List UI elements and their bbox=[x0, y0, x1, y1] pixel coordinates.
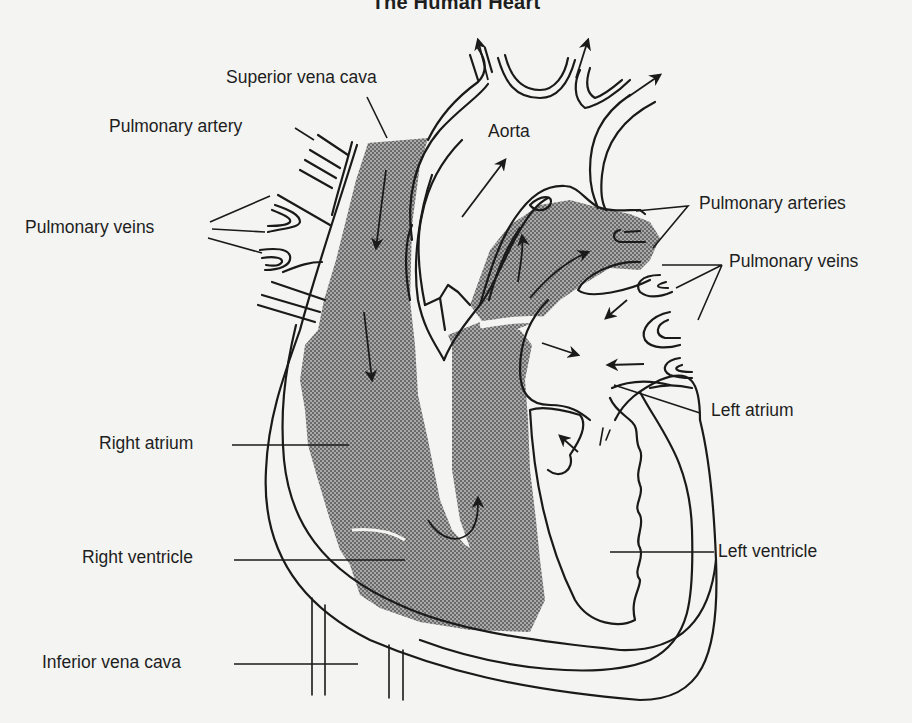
right-pulmonary-vein-loop-2 bbox=[644, 312, 680, 347]
pulmonary-vein-arrow-3 bbox=[542, 343, 578, 355]
label-pulmonary-veins-right: Pulmonary veins bbox=[729, 253, 858, 271]
heart-diagram: The Human Heart bbox=[0, 0, 912, 723]
pulmonary-vein-arrow-2 bbox=[608, 364, 644, 365]
aorta-outflow-arrow bbox=[462, 160, 505, 217]
label-right-ventricle: Right ventricle bbox=[82, 549, 193, 567]
inferior-vena-cava-wall bbox=[312, 598, 403, 700]
leader-pulmonary-veins-left bbox=[208, 196, 270, 253]
left-pulmonary-artery bbox=[310, 135, 348, 168]
label-pulmonary-artery: Pulmonary artery bbox=[109, 118, 242, 136]
left-pulmonary-vein-3 bbox=[258, 282, 325, 322]
label-superior-vena-cava: Superior vena cava bbox=[226, 69, 377, 87]
aorta-outer-left bbox=[428, 48, 485, 140]
label-aorta: Aorta bbox=[488, 123, 530, 141]
aortic-arch-top bbox=[498, 58, 575, 98]
leader-pulmonary-artery bbox=[295, 128, 314, 140]
left-ventricle-chamber bbox=[530, 398, 641, 624]
aortic-branch-arrow-2 bbox=[576, 40, 588, 78]
label-inferior-vena-cava: Inferior vena cava bbox=[42, 654, 181, 672]
label-left-ventricle: Left ventricle bbox=[718, 543, 817, 561]
leader-left-atrium bbox=[614, 385, 700, 413]
diagram-title: The Human Heart bbox=[0, 0, 912, 14]
label-pulmonary-arteries: Pulmonary arteries bbox=[699, 195, 846, 213]
heart-illustration bbox=[0, 0, 912, 723]
label-left-atrium: Left atrium bbox=[711, 402, 794, 420]
descending-aorta bbox=[590, 95, 630, 208]
left-pulmonary-vein-2 bbox=[260, 249, 290, 270]
aortic-branch-arrow-3 bbox=[628, 75, 660, 97]
leader-superior-vena-cava bbox=[367, 97, 387, 138]
pulmonary-vein-arrow-1 bbox=[606, 300, 627, 318]
mitral-arrow bbox=[560, 436, 578, 452]
label-pulmonary-veins-left: Pulmonary veins bbox=[25, 219, 154, 237]
label-right-atrium: Right atrium bbox=[99, 435, 193, 453]
